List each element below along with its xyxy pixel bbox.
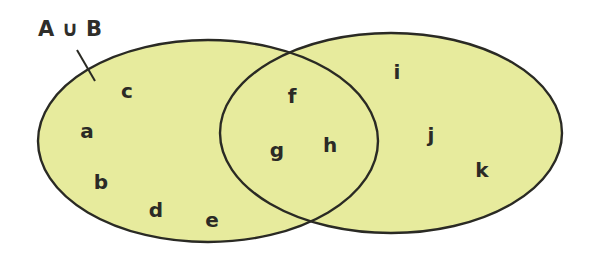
element-label-k: k	[475, 158, 489, 182]
element-label-i: i	[394, 60, 401, 84]
element-label-f: f	[288, 84, 297, 108]
set-b-fill	[220, 33, 562, 233]
venn-svg: A ∪ B abcdefghijk	[0, 0, 589, 257]
union-title: A ∪ B	[38, 17, 102, 41]
element-label-b: b	[94, 170, 108, 194]
element-label-h: h	[323, 133, 337, 157]
venn-diagram: A ∪ B abcdefghijk	[0, 0, 589, 257]
element-label-d: d	[149, 198, 163, 222]
element-label-a: a	[80, 119, 94, 143]
element-label-e: e	[205, 208, 219, 232]
element-label-j: j	[427, 123, 435, 147]
element-label-g: g	[270, 138, 284, 162]
element-label-c: c	[121, 79, 133, 103]
